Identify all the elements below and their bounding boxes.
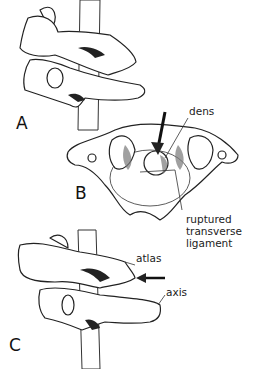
- panel-label-b: B: [75, 185, 87, 202]
- label-ruptured-line1: ruptured: [186, 213, 242, 225]
- panel-label-a: A: [16, 115, 28, 132]
- panel-label-c: C: [9, 337, 21, 354]
- label-ruptured-line3: ligament: [186, 237, 242, 249]
- label-axis: axis: [166, 286, 187, 298]
- label-ruptured-transverse-ligament: ruptured transverse ligament: [186, 213, 242, 249]
- illustration: [0, 0, 254, 369]
- label-dens: dens: [189, 105, 214, 117]
- label-atlas: atlas: [136, 252, 161, 264]
- panel-a-drawing: [20, 0, 145, 130]
- label-ruptured-line2: transverse: [186, 225, 242, 237]
- panel-c-drawing: [19, 230, 166, 369]
